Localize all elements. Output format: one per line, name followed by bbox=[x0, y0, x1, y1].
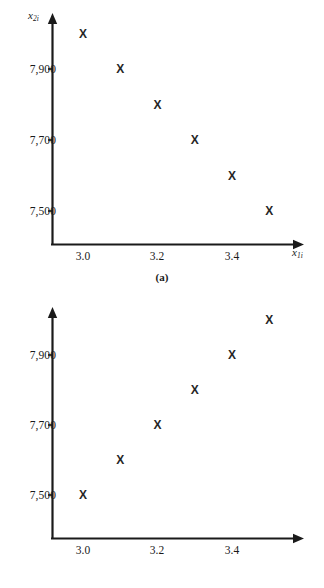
figure-panel-b: x2i x1i 7,900 7,700 7,500 3.0 3.2 3.4 XX… bbox=[0, 294, 324, 588]
data-point-marker: X bbox=[152, 419, 164, 431]
data-point-marker: X bbox=[114, 63, 126, 75]
data-point-layer-b: XXXXXX bbox=[0, 294, 324, 588]
data-point-marker: X bbox=[189, 134, 201, 146]
data-point-layer-a: XXXXXX bbox=[0, 0, 324, 294]
data-point-marker: X bbox=[226, 170, 238, 182]
panel-caption-a: (a) bbox=[0, 271, 324, 283]
data-point-marker: X bbox=[77, 489, 89, 501]
figure-panel-a: x2i x1i 7,900 7,700 7,500 3.0 3.2 3.4 XX… bbox=[0, 0, 324, 294]
data-point-marker: X bbox=[152, 99, 164, 111]
data-point-marker: X bbox=[263, 314, 275, 326]
data-point-marker: X bbox=[77, 28, 89, 40]
data-point-marker: X bbox=[226, 349, 238, 361]
data-point-marker: X bbox=[114, 454, 126, 466]
data-point-marker: X bbox=[189, 384, 201, 396]
data-point-marker: X bbox=[263, 205, 275, 217]
